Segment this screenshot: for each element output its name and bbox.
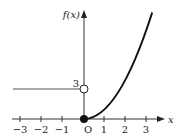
x-tick-label: −2 — [34, 124, 49, 135]
y-axis-arrow-icon — [81, 10, 87, 18]
origin-label: O — [84, 124, 92, 135]
open-circle-marker — [80, 85, 88, 93]
x-tick-label: −1 — [55, 124, 70, 135]
x-tick-label: −3 — [13, 124, 28, 135]
y-axis-label: f(x) — [62, 9, 80, 20]
x-tick-label: 3 — [143, 124, 149, 135]
x-tick-label: 1 — [101, 124, 107, 135]
x-axis-arrow-icon — [157, 116, 165, 122]
x-axis-label: x — [168, 114, 174, 125]
series-parabola-curve — [84, 13, 152, 120]
y-tick-label: 3 — [73, 78, 79, 89]
filled-circle-marker — [80, 115, 88, 123]
piecewise-function-chart: −3 −2 −1 O 1 2 3 x f(x) 3 — [0, 0, 176, 139]
x-tick-label: 2 — [122, 124, 128, 135]
